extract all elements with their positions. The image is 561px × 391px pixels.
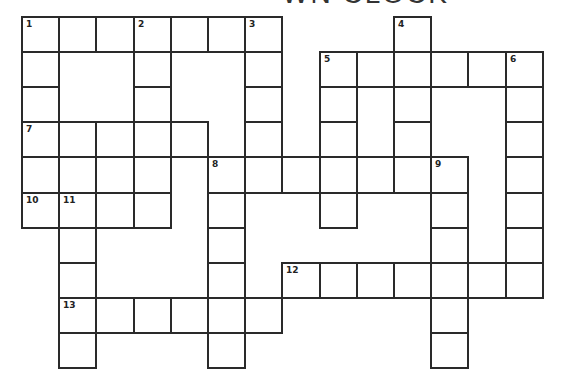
clue-number: 4: [398, 19, 404, 29]
clue-number: 10: [26, 195, 39, 205]
crossword-cell[interactable]: [430, 51, 469, 88]
crossword-cell[interactable]: [393, 156, 432, 194]
crossword-cell[interactable]: [21, 51, 60, 88]
crossword-cell[interactable]: 3: [244, 16, 283, 53]
crossword-cell[interactable]: [356, 156, 395, 194]
crossword-cell[interactable]: [505, 262, 544, 299]
crossword-cell[interactable]: [430, 297, 469, 334]
crossword-cell[interactable]: [467, 262, 507, 299]
crossword-cell[interactable]: [244, 86, 283, 123]
crossword-cell[interactable]: [58, 156, 97, 194]
crossword-cell[interactable]: [207, 227, 246, 264]
crossword-cell[interactable]: [207, 16, 246, 53]
crossword-cell[interactable]: [170, 16, 209, 53]
crossword-cell[interactable]: [207, 332, 246, 369]
crossword-cell[interactable]: [133, 192, 172, 229]
crossword-cell[interactable]: [58, 227, 97, 264]
clue-number: 7: [26, 124, 32, 134]
crossword-cell[interactable]: [21, 86, 60, 123]
crossword-cell[interactable]: [95, 192, 135, 229]
crossword-cell[interactable]: [58, 262, 97, 299]
clue-number: 11: [63, 195, 76, 205]
crossword-cell[interactable]: [58, 121, 97, 158]
crossword-cell[interactable]: [133, 156, 172, 194]
crossword-cell[interactable]: [319, 156, 358, 194]
crossword-cell[interactable]: 13: [58, 297, 97, 334]
clue-number: 9: [435, 159, 441, 169]
crossword-cell[interactable]: 4: [393, 16, 432, 53]
crossword-cell[interactable]: [170, 121, 209, 158]
clue-number: 12: [286, 265, 299, 275]
crossword-cell[interactable]: [505, 121, 544, 158]
crossword-cell[interactable]: [244, 156, 283, 194]
crossword-cell[interactable]: [244, 51, 283, 88]
crossword-cell[interactable]: 5: [319, 51, 358, 88]
crossword-cell[interactable]: [58, 16, 97, 53]
crossword-cell[interactable]: [356, 262, 395, 299]
crossword-cell[interactable]: [319, 86, 358, 123]
crossword-grid: 12371045689111312: [0, 0, 561, 391]
crossword-cell[interactable]: [393, 262, 432, 299]
crossword-cell[interactable]: [170, 297, 209, 334]
crossword-cell[interactable]: [207, 192, 246, 229]
crossword-cell[interactable]: [430, 227, 469, 264]
crossword-cell[interactable]: [393, 51, 432, 88]
crossword-cell[interactable]: [505, 86, 544, 123]
crossword-cell[interactable]: [244, 121, 283, 158]
crossword-cell[interactable]: [505, 156, 544, 194]
clue-number: 6: [510, 54, 516, 64]
crossword-cell[interactable]: 6: [505, 51, 544, 88]
crossword-cell[interactable]: 1: [21, 16, 60, 53]
crossword-cell[interactable]: [133, 51, 172, 88]
crossword-cell[interactable]: [393, 121, 432, 158]
crossword-cell[interactable]: [281, 156, 321, 194]
crossword-cell[interactable]: [319, 262, 358, 299]
crossword-cell[interactable]: 10: [21, 192, 60, 229]
crossword-cell[interactable]: [207, 297, 246, 334]
crossword-cell[interactable]: [95, 121, 135, 158]
crossword-cell[interactable]: [133, 297, 172, 334]
crossword-cell[interactable]: [58, 332, 97, 369]
crossword-cell[interactable]: [430, 332, 469, 369]
crossword-cell[interactable]: [207, 262, 246, 299]
crossword-cell[interactable]: 7: [21, 121, 60, 158]
crossword-cell[interactable]: [505, 192, 544, 229]
crossword-cell[interactable]: [467, 51, 507, 88]
crossword-cell[interactable]: [95, 16, 135, 53]
crossword-cell[interactable]: 11: [58, 192, 97, 229]
crossword-cell[interactable]: 9: [430, 156, 469, 194]
crossword-cell[interactable]: [430, 262, 469, 299]
crossword-cell[interactable]: [133, 86, 172, 123]
crossword-cell[interactable]: [21, 156, 60, 194]
crossword-cell[interactable]: [95, 156, 135, 194]
crossword-cell[interactable]: 2: [133, 16, 172, 53]
crossword-cell[interactable]: [244, 297, 283, 334]
crossword-cell[interactable]: [356, 51, 395, 88]
clue-number: 3: [249, 19, 255, 29]
crossword-cell[interactable]: 8: [207, 156, 246, 194]
crossword-cell[interactable]: [133, 121, 172, 158]
crossword-cell[interactable]: [505, 227, 544, 264]
clue-number: 1: [26, 19, 32, 29]
crossword-cell[interactable]: [95, 297, 135, 334]
clue-number: 2: [138, 19, 144, 29]
crossword-cell[interactable]: 12: [281, 262, 321, 299]
clue-number: 13: [63, 300, 76, 310]
clue-number: 5: [324, 54, 330, 64]
clue-number: 8: [212, 159, 218, 169]
crossword-cell[interactable]: [319, 121, 358, 158]
crossword-cell[interactable]: [430, 192, 469, 229]
crossword-cell[interactable]: [319, 192, 358, 229]
crossword-cell[interactable]: [393, 86, 432, 123]
